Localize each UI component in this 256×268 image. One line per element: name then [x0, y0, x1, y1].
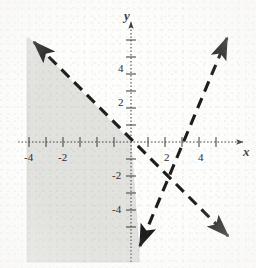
y-tick-label-4: 4 [118, 63, 124, 74]
x-tick-label-neg2: -2 [58, 152, 67, 163]
graph-figure: -4 -2 2 4 4 2 -2 -4 y x [0, 0, 256, 268]
coordinate-plane-svg [0, 0, 256, 268]
y-tick-label-2: 2 [118, 97, 124, 108]
x-tick-label-neg4: -4 [24, 152, 33, 163]
x-tick-label-4: 4 [198, 152, 204, 163]
x-axis-label: x [243, 145, 250, 158]
y-axis-label: y [124, 9, 130, 22]
y-tick-label-neg4: -4 [112, 204, 121, 215]
x-tick-label-2: 2 [164, 152, 170, 163]
y-tick-label-neg2: -2 [112, 170, 121, 181]
